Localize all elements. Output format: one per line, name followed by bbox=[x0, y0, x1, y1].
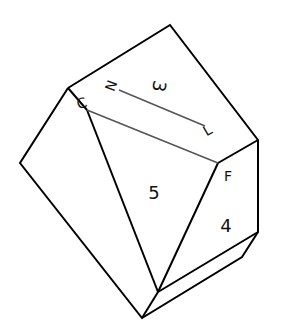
edge-C-F bbox=[87, 110, 218, 163]
label-point-C: C bbox=[74, 94, 89, 112]
label-point-F: F bbox=[224, 168, 232, 184]
line-N-L bbox=[119, 90, 205, 126]
label-point-L: L bbox=[200, 121, 215, 139]
label-face-5: 5 bbox=[148, 182, 159, 203]
label-face-3: 3 bbox=[148, 79, 171, 94]
label-face-4: 4 bbox=[220, 215, 231, 236]
outline-edges bbox=[20, 25, 258, 318]
diagram-canvas: 354CNLF bbox=[0, 0, 281, 332]
crystal-diagram: 354CNLF bbox=[0, 0, 281, 332]
edge-F-right bbox=[218, 140, 258, 163]
labels-group: 354CNLF bbox=[74, 78, 232, 236]
edge-F-bottom bbox=[158, 163, 218, 292]
label-point-N: N bbox=[102, 78, 121, 93]
